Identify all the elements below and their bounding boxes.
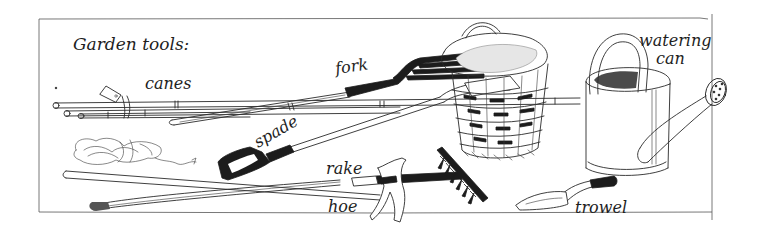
canes-label: canes <box>145 74 191 93</box>
rake-label: rake <box>326 159 362 178</box>
title-label: Garden tools: <box>73 34 189 54</box>
fork-label: fork <box>333 55 369 79</box>
garden-tools-illustration: Garden tools: canes <box>0 0 764 236</box>
hoe-label: hoe <box>328 197 357 216</box>
trowel-label: trowel <box>575 198 627 217</box>
watering-can-label-line1: watering <box>639 31 711 50</box>
watering-can-label-line2: can <box>656 49 685 68</box>
string-coil-drawing <box>74 138 196 164</box>
